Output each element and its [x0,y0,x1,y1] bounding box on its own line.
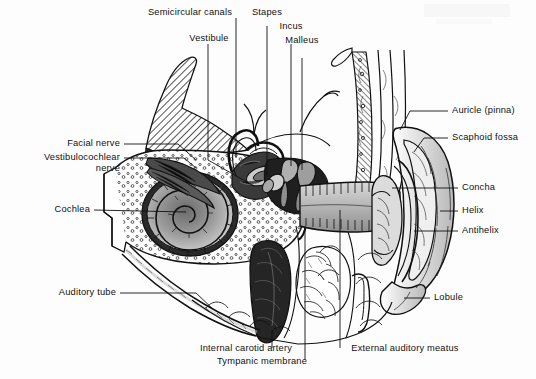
label-malleus: Malleus [266,35,338,46]
ear-anatomy-illustration [0,0,536,379]
label-facial-nerve: Facial nerve [10,138,120,149]
label-external-auditory-meatus: External auditory meatus [330,343,480,354]
ear-anatomy-figure: Semicircular canals Vestibule Stapes Inc… [0,0,536,379]
label-concha: Concha [462,182,495,193]
mastoid-air-cells [296,247,351,320]
label-auricle-pinna: Auricle (pinna) [452,105,515,116]
label-tympanic-membrane: Tympanic membrane [192,356,332,367]
label-helix: Helix [462,205,484,216]
label-cochlea: Cochlea [0,204,90,215]
label-lobule: Lobule [434,292,463,303]
label-stapes: Stapes [230,7,304,18]
label-vestibule: Vestibule [159,33,259,44]
label-semicircular-canals: Semicircular canals [136,7,244,18]
label-scaphoid-fossa: Scaphoid fossa [452,132,518,143]
label-internal-carotid-artery: Internal carotid artery [176,343,316,354]
label-antihelix: Antihelix [462,225,499,236]
label-auditory-tube: Auditory tube [20,287,116,298]
label-incus: Incus [256,21,326,32]
label-vestibulocochlear-nerve-line2: nerve [4,163,120,174]
label-vestibulocochlear-nerve-line1: Vestibulocochlear [4,152,120,163]
